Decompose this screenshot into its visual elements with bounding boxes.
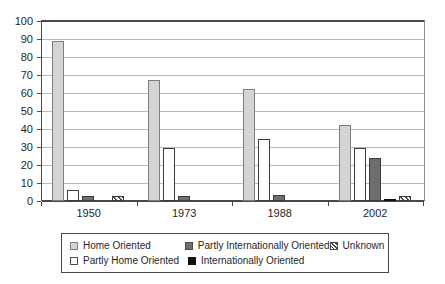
chart-legend: Home OrientedPartly Internationally Orie…	[61, 233, 389, 273]
legend-label: Internationally Oriented	[201, 255, 304, 267]
bar	[243, 89, 255, 201]
y-axis-tick-label: 0	[27, 195, 37, 207]
bar	[369, 158, 381, 201]
y-axis-tick: 70	[21, 69, 41, 81]
bar	[339, 125, 351, 202]
legend-swatch-icon	[188, 257, 196, 265]
bar	[354, 148, 366, 201]
legend-label: Home Oriented	[83, 240, 151, 252]
y-axis-tick-label: 30	[21, 141, 37, 153]
bar	[178, 196, 190, 201]
y-axis-tick-label: 40	[21, 123, 37, 135]
x-axis-tick-mark	[137, 202, 138, 206]
legend-item[interactable]: Internationally Oriented	[188, 255, 335, 267]
legend-item[interactable]: Unknown	[330, 240, 388, 252]
y-axis-tick: 80	[21, 51, 41, 63]
legend-row: Home OrientedPartly Internationally Orie…	[70, 238, 388, 253]
legend-swatch-icon	[70, 257, 78, 265]
bar	[273, 195, 285, 201]
bar	[163, 148, 175, 201]
legend-swatch-icon	[330, 242, 338, 250]
y-axis-tick: 100	[15, 15, 41, 27]
x-axis-tick-mark	[328, 202, 329, 206]
y-axis-tick-label: 90	[21, 33, 37, 45]
y-axis-tick: 10	[21, 177, 41, 189]
y-axis-tick-label: 10	[21, 177, 37, 189]
legend-item[interactable]: Partly Internationally Oriented	[185, 240, 330, 252]
bar	[258, 139, 270, 201]
y-axis-tick-label: 50	[21, 105, 37, 117]
y-axis-tick-label: 60	[21, 87, 37, 99]
bar	[52, 41, 64, 201]
bar	[148, 80, 160, 202]
bars-layer	[42, 21, 424, 201]
y-axis-tick: 20	[21, 159, 41, 171]
y-axis-tick: 90	[21, 33, 41, 45]
x-axis-category-label: 1988	[232, 207, 328, 220]
legend-label: Unknown	[343, 240, 385, 252]
x-axis-category-label: 1950	[41, 207, 137, 220]
x-axis-tick-mark	[41, 202, 42, 206]
bar	[384, 199, 396, 201]
bar	[82, 196, 94, 201]
y-axis-tick-label: 80	[21, 51, 37, 63]
y-axis-tick: 50	[21, 105, 41, 117]
bar	[67, 190, 79, 201]
y-axis-tick: 60	[21, 87, 41, 99]
y-axis-tick: 40	[21, 123, 41, 135]
y-axis-tick: 30	[21, 141, 41, 153]
legend-label: Partly Internationally Oriented	[198, 240, 330, 252]
legend-item[interactable]: Home Oriented	[70, 240, 185, 252]
y-axis-tick-label: 100	[15, 15, 37, 27]
legend-label: Partly Home Oriented	[83, 255, 179, 267]
bar-chart: 0102030405060708090100 1950197319882002 …	[0, 0, 445, 284]
y-axis: 0102030405060708090100	[0, 20, 41, 202]
y-axis-tick: 0	[27, 195, 41, 207]
legend-swatch-icon	[70, 242, 78, 250]
bar	[399, 196, 411, 201]
y-axis-tick-label: 70	[21, 69, 37, 81]
legend-row: Partly Home OrientedInternationally Orie…	[70, 253, 388, 268]
x-axis: 1950197319882002	[41, 202, 425, 224]
x-axis-category-label: 2002	[328, 207, 424, 220]
y-axis-tick-label: 20	[21, 159, 37, 171]
x-axis-tick-mark	[232, 202, 233, 206]
legend-swatch-icon	[185, 242, 193, 250]
x-axis-tick-mark	[423, 202, 424, 206]
bar	[112, 196, 124, 201]
legend-item[interactable]: Partly Home Oriented	[70, 255, 188, 267]
x-axis-category-label: 1973	[137, 207, 233, 220]
